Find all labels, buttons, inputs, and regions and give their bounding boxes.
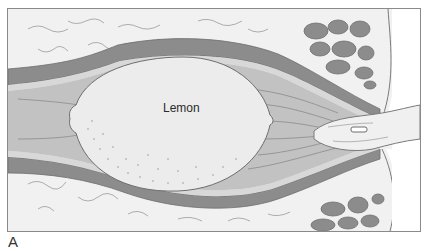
panel-label: A	[8, 233, 18, 250]
illustration-graphic	[8, 9, 420, 231]
fingernail	[351, 127, 367, 132]
lemon-label: Lemon	[163, 101, 200, 115]
anatomical-illustration: Lemon	[7, 8, 421, 232]
